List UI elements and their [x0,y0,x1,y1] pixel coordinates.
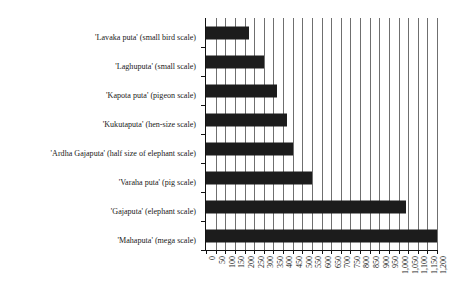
x-axis-tick-label: 550 [315,256,323,268]
y-axis-category-labels: 'Lavaka puta' (small bird scale)'Laghupu… [0,18,202,250]
x-axis-tick [408,250,409,254]
x-axis-tick [206,250,207,254]
x-axis-tick [312,250,313,254]
gridline [235,18,236,250]
x-axis-tick-label: 350 [277,256,285,268]
gridline [273,18,274,250]
x-axis-tick-label: 750 [354,256,362,268]
y-axis-line [205,18,206,251]
x-axis-tick-label: 450 [296,256,304,268]
gridline [341,18,342,250]
x-axis-tick-label: 850 [373,256,381,268]
gridline [245,18,246,250]
x-axis-tick-label: 800 [363,256,371,268]
plot-area [206,18,437,250]
x-axis-tick [350,250,351,254]
x-axis-tick [216,250,217,254]
x-axis-tick [273,250,274,254]
x-axis-tick [293,250,294,254]
x-axis-tick [427,250,428,254]
x-axis-tick [389,250,390,254]
x-axis-tick-label: 900 [383,256,391,268]
y-axis-tick [201,250,205,251]
x-axis-tick-label: 400 [286,256,294,268]
gridline [418,18,419,250]
gridline [408,18,409,250]
x-axis-tick-label: 650 [335,256,343,268]
x-axis-tick-label: 950 [392,256,400,268]
x-axis-tick [360,250,361,254]
gridline [216,18,217,250]
gridline [293,18,294,250]
x-axis-tick-label: 50 [219,256,227,264]
y-axis-tick [201,134,205,135]
x-axis-tick-label: 200 [248,256,256,268]
x-axis-tick-label: 500 [306,256,314,268]
x-axis-tick [331,250,332,254]
gridline [283,18,284,250]
gridline [264,18,265,250]
gridline [254,18,255,250]
x-axis-tick-label: 1,200 [440,256,448,274]
bar [206,55,264,68]
y-axis-tick [201,47,205,48]
x-axis-tick-label: 0 [209,256,217,260]
x-axis-tick-label: 700 [344,256,352,268]
gridline [225,18,226,250]
bar [206,229,437,242]
y-axis-tick [201,221,205,222]
bar [206,84,277,97]
gridline [437,18,438,250]
x-axis-tick [254,250,255,254]
x-axis-tick-label: 600 [325,256,333,268]
y-axis-tick [201,192,205,193]
bar [206,113,287,126]
gridline [331,18,332,250]
x-axis-tick [225,250,226,254]
x-axis-tick [245,250,246,254]
x-axis-tick-label: 1,050 [412,256,420,274]
x-axis-tick [379,250,380,254]
gridline [350,18,351,250]
x-axis-tick-label: 300 [267,256,275,268]
x-axis-tick-label: 1,100 [421,256,429,274]
gridline [389,18,390,250]
y-axis-tick [201,163,205,164]
bar [206,26,249,39]
gridline [322,18,323,250]
x-axis-tick [341,250,342,254]
gridline [379,18,380,250]
bar-chart: 'Lavaka puta' (small bird scale)'Laghupu… [0,0,474,297]
x-axis-tick [264,250,265,254]
x-axis-tick [302,250,303,254]
x-axis-tick [322,250,323,254]
x-axis-tick-label: 100 [229,256,237,268]
x-axis-tick [418,250,419,254]
y-axis-tick [201,105,205,106]
x-axis-tick-label: 150 [238,256,246,268]
x-axis-tick [235,250,236,254]
x-axis-tick [399,250,400,254]
bar [206,171,312,184]
x-axis-tick [283,250,284,254]
x-axis-tick [437,250,438,254]
x-axis-tick-label: 1,000 [402,256,410,274]
gridline [302,18,303,250]
x-axis-tick [370,250,371,254]
gridline [399,18,400,250]
x-axis-tick-label: 250 [258,256,266,268]
bar [206,142,293,155]
y-axis-tick [201,76,205,77]
gridline [312,18,313,250]
gridline [427,18,428,250]
gridline [360,18,361,250]
bar [206,200,406,213]
x-axis-tick-label: 1,150 [431,256,439,274]
gridline [370,18,371,250]
